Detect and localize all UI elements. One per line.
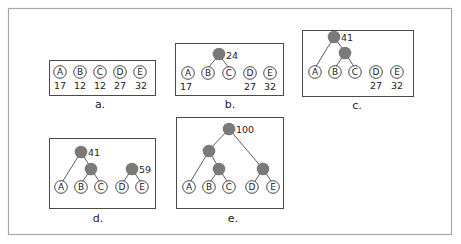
internal-node-b-BC: 24 (213, 48, 238, 61)
node-weight: 59 (139, 164, 151, 175)
panel-caption: b. (225, 98, 235, 111)
leaf-d-D: D (116, 181, 129, 194)
internal-node-circle (339, 47, 352, 60)
leaf-label: E (137, 67, 143, 77)
leaf-label: D (117, 67, 124, 77)
internal-node-circle (213, 48, 226, 61)
leaf-d-A: A (55, 181, 68, 194)
panel-caption: e. (228, 212, 238, 225)
leaf-label: D (247, 68, 254, 78)
leaf-label: C (352, 67, 358, 77)
leaf-label: C (226, 68, 232, 78)
leaf-e-B: B (203, 181, 216, 194)
leaf-b-C: C (223, 67, 236, 80)
node-weight: 100 (236, 124, 254, 135)
internal-node-circle (203, 145, 216, 158)
internal-node-c-BC (339, 47, 352, 60)
leaf-label: B (206, 182, 212, 192)
leaf-d-B: B (75, 181, 88, 194)
leaf-label: D (119, 182, 126, 192)
leaf-weight: 17 (54, 80, 66, 91)
panel-e: 100 A B C D E e. (177, 118, 284, 226)
leaf-label: E (267, 68, 273, 78)
leaf-weight: 17 (180, 81, 192, 92)
leaf-e-A: A (183, 181, 196, 194)
leaf-weight: 32 (391, 80, 403, 91)
panel-caption: d. (93, 212, 103, 225)
leaf-weight: 12 (94, 80, 106, 91)
leaf-label: B (78, 182, 84, 192)
leaf-e-E: E (267, 181, 280, 194)
leaf-weight: 12 (74, 80, 86, 91)
leaf-label: D (373, 67, 380, 77)
huffman-diagram: A 17 B 12 C 12 D 27 E 32 a. (0, 0, 461, 244)
node-weight: 41 (341, 32, 353, 43)
internal-node-e-BC (213, 163, 226, 176)
leaf-label: A (185, 68, 192, 78)
leaf-weight: 27 (370, 80, 382, 91)
leaf-label: C (226, 182, 232, 192)
leaf-label: E (139, 182, 145, 192)
leaf-c-C: C (349, 66, 362, 79)
internal-node-e-DE (257, 163, 270, 176)
internal-node-e-root: 100 (223, 123, 254, 136)
leaf-label: C (97, 67, 103, 77)
leaf-label: A (312, 67, 319, 77)
panel-caption: a. (95, 98, 105, 111)
internal-node-d-ABC: 41 (75, 146, 100, 159)
leaf-label: A (186, 182, 193, 192)
leaf-c-A: A (309, 66, 322, 79)
internal-node-d-DE: 59 (126, 163, 151, 176)
internal-node-circle (328, 31, 341, 44)
leaf-label: B (77, 67, 83, 77)
leaf-label: E (394, 67, 400, 77)
panel-caption: c. (352, 99, 362, 112)
leaf-label: B (332, 67, 338, 77)
leaf-weight: 32 (264, 81, 276, 92)
internal-node-circle (85, 163, 98, 176)
internal-node-e-ABC (203, 145, 216, 158)
internal-node-d-BC (85, 163, 98, 176)
leaf-label: B (205, 68, 211, 78)
leaf-d-E: E (136, 181, 149, 194)
internal-node-circle (126, 163, 139, 176)
internal-node-circle (223, 123, 236, 136)
internal-node-circle (257, 163, 270, 176)
leaf-label: C (98, 182, 104, 192)
internal-node-circle (213, 163, 226, 176)
leaf-label: D (249, 182, 256, 192)
leaf-c-B: B (329, 66, 342, 79)
internal-node-c-ABC: 41 (328, 31, 353, 44)
leaf-label: E (270, 182, 276, 192)
leaf-weight: 27 (114, 80, 126, 91)
internal-node-circle (75, 146, 88, 159)
leaf-weight: 27 (244, 81, 256, 92)
leaf-d-C: C (95, 181, 108, 194)
leaf-weight: 32 (135, 80, 147, 91)
leaf-label: A (58, 182, 65, 192)
leaf-label: A (57, 67, 64, 77)
leaf-e-C: C (223, 181, 236, 194)
leaf-e-D: D (246, 181, 259, 194)
leaf-b-B: B (202, 67, 215, 80)
node-weight: 24 (226, 50, 238, 61)
node-weight: 41 (88, 147, 100, 158)
